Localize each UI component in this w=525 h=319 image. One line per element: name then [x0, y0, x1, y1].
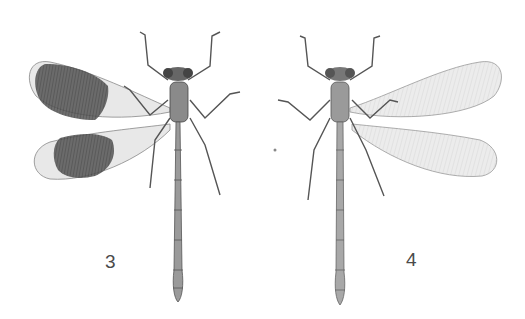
thorax	[170, 82, 188, 122]
abdomen	[335, 122, 345, 305]
figure-label-4: 4	[406, 249, 417, 271]
compound-eye-right	[183, 68, 193, 78]
abdomen	[173, 122, 183, 302]
compound-eye-left	[325, 68, 335, 78]
compound-eye-right	[345, 68, 355, 78]
hindwing-left	[34, 124, 170, 179]
speck	[274, 149, 277, 152]
damselfly-specimen-3	[29, 32, 240, 302]
damselfly-specimen-4	[278, 36, 501, 305]
illustration-plate	[0, 0, 525, 319]
thorax	[331, 82, 349, 122]
forewing-left	[29, 62, 170, 120]
compound-eye-left	[163, 68, 173, 78]
figure-label-3: 3	[105, 251, 116, 273]
